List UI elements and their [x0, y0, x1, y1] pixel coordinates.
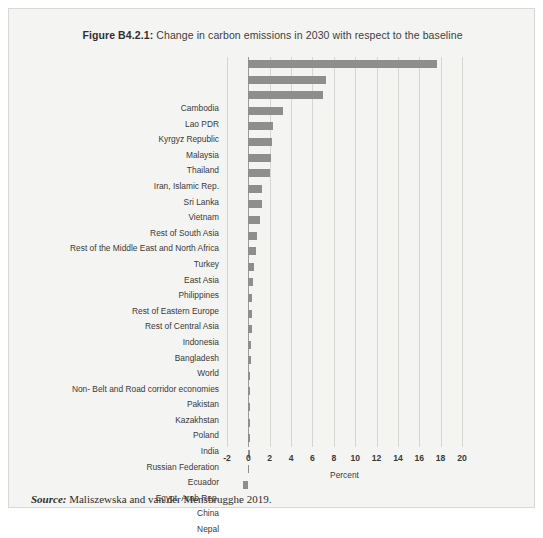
bar-row	[227, 384, 462, 400]
category-axis-labels: CambodiaLao PDRKyrgyz RepublicMalaysiaTh…	[9, 101, 223, 538]
bar-row	[227, 322, 462, 338]
bar	[248, 263, 253, 271]
category-label: World	[9, 366, 223, 382]
bar	[248, 60, 437, 68]
bar	[248, 138, 272, 146]
bar-row	[227, 291, 462, 307]
category-label: Iran, Islamic Rep.	[9, 179, 223, 195]
bar	[243, 481, 248, 489]
category-label: Rest of Eastern Europe	[9, 304, 223, 320]
bar	[248, 107, 282, 115]
x-axis-ticks: -202468101214161820	[227, 453, 462, 469]
bar	[248, 372, 250, 380]
x-tick-label: 18	[436, 453, 446, 463]
category-label: Philippines	[9, 288, 223, 304]
category-label: India	[9, 444, 223, 460]
category-label: East Asia	[9, 273, 223, 289]
category-label: China	[9, 506, 223, 522]
bar-row	[227, 353, 462, 369]
category-label: Pakistan	[9, 397, 223, 413]
category-label: Sri Lanka	[9, 195, 223, 211]
category-label: Bangladesh	[9, 351, 223, 367]
bar-row	[227, 431, 462, 447]
bar-row	[227, 260, 462, 276]
bar-row	[227, 478, 462, 494]
bar-row	[227, 369, 462, 385]
category-label: Rest of the Middle East and North Africa	[9, 241, 223, 257]
figure-title-text: Change in carbon emissions in 2030 with …	[153, 29, 462, 41]
x-tick-label: 16	[414, 453, 424, 463]
category-label: Kazakhstan	[9, 413, 223, 429]
bar-row	[227, 338, 462, 354]
bar	[248, 403, 250, 411]
bar-row	[227, 244, 462, 260]
bar-row	[227, 166, 462, 182]
bar	[248, 122, 273, 130]
category-label: Kyrgyz Republic	[9, 132, 223, 148]
x-tick-label: 6	[310, 453, 315, 463]
figure-title: Figure B4.2.1: Change in carbon emission…	[9, 29, 536, 41]
bar	[248, 91, 323, 99]
bar	[248, 76, 326, 84]
bar-row	[227, 213, 462, 229]
bar	[248, 232, 257, 240]
category-label: Lao PDR	[9, 117, 223, 133]
bar	[248, 200, 262, 208]
bar-row	[227, 182, 462, 198]
category-label: Nepal	[9, 522, 223, 538]
bar-row	[227, 275, 462, 291]
category-label: Cambodia	[9, 101, 223, 117]
category-label: Vietnam	[9, 210, 223, 226]
category-label: Thailand	[9, 163, 223, 179]
bar	[248, 387, 250, 395]
gridline	[462, 57, 463, 447]
bar	[248, 169, 269, 177]
bar-row	[227, 104, 462, 120]
category-label: Ecuador	[9, 475, 223, 491]
x-tick-label: -2	[223, 453, 231, 463]
bar	[248, 325, 251, 333]
x-tick-label: 14	[393, 453, 403, 463]
figure-container: Figure B4.2.1: Change in carbon emission…	[8, 8, 535, 508]
chart-plot-area: CambodiaLao PDRKyrgyz RepublicMalaysiaTh…	[9, 53, 536, 453]
bar-row	[227, 229, 462, 245]
bar	[248, 185, 262, 193]
bar-row	[227, 119, 462, 135]
bar-row	[227, 400, 462, 416]
x-tick-label: 12	[372, 453, 382, 463]
category-label: Malaysia	[9, 148, 223, 164]
bar-row	[227, 135, 462, 151]
x-tick-label: 8	[331, 453, 336, 463]
category-label: Turkey	[9, 257, 223, 273]
bar	[248, 278, 252, 286]
category-label: Non- Belt and Road corridor economies	[9, 382, 223, 398]
bar	[248, 247, 255, 255]
bar	[248, 356, 251, 364]
category-label: Rest of South Asia	[9, 226, 223, 242]
x-tick-label: 10	[350, 453, 360, 463]
bar	[248, 341, 251, 349]
category-label: Poland	[9, 428, 223, 444]
bar	[248, 216, 260, 224]
bar-row	[227, 88, 462, 104]
x-axis-title: Percent	[227, 470, 462, 480]
bar-row	[227, 307, 462, 323]
figure-number-label: Figure B4.2.1:	[82, 29, 153, 41]
bar	[248, 310, 251, 318]
bar-row	[227, 151, 462, 167]
category-label: Rest of Central Asia	[9, 319, 223, 335]
source-label: Source:	[31, 493, 66, 505]
bar	[248, 434, 249, 442]
source-note: Source: Maliszewska and van der Mensbrug…	[31, 493, 271, 505]
bars-and-gridlines	[227, 57, 462, 447]
category-label: Russian Federation	[9, 460, 223, 476]
x-tick-label: 4	[289, 453, 294, 463]
bar-row	[227, 416, 462, 432]
x-tick-label: 20	[457, 453, 467, 463]
bar	[248, 294, 252, 302]
x-tick-label: 0	[246, 453, 251, 463]
bar	[248, 419, 250, 427]
bar-row	[227, 73, 462, 89]
x-tick-label: 2	[267, 453, 272, 463]
bar-row	[227, 197, 462, 213]
